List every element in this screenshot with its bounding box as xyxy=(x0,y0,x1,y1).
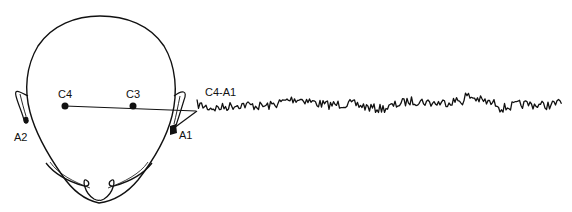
electrode-label-c4: C4 xyxy=(58,89,72,100)
electrode-c4-marker xyxy=(62,103,69,110)
electrode-a1-marker xyxy=(170,124,177,135)
electrode-label-a1: A1 xyxy=(179,130,192,141)
eeg-waveform xyxy=(197,93,562,112)
head-illustration xyxy=(0,0,572,212)
nose-left xyxy=(46,163,100,200)
derivation-label: C4-A1 xyxy=(205,87,236,98)
electrode-c3-marker xyxy=(130,103,137,110)
electrode-a2-marker xyxy=(24,117,29,124)
nose-right xyxy=(100,163,152,200)
electrode-label-a2: A2 xyxy=(14,132,27,143)
eeg-montage-diagram: C4 C3 A2 A1 C4-A1 xyxy=(0,0,572,212)
electrode-label-c3: C3 xyxy=(126,89,140,100)
